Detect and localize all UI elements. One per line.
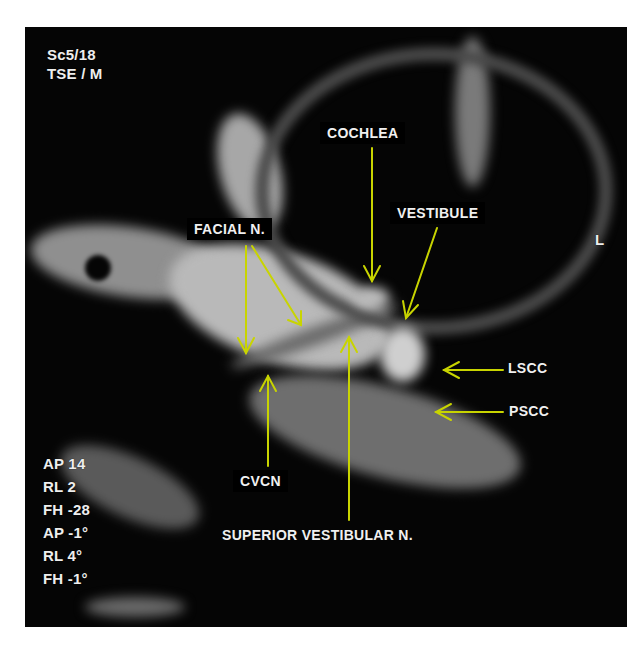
arc-top: [255, 47, 613, 335]
bottom-left-tissue-2: [85, 597, 185, 617]
scan-geometry-bottom-left: AP 14 RL 2 FH -28 AP -1° RL 4° FH -1°: [43, 452, 90, 590]
dark-hole: [85, 255, 111, 281]
geometry-line: FH -28: [43, 498, 90, 521]
label-superior-vestibular-n: SUPERIOR VESTIBULAR N.: [222, 527, 413, 543]
label-lscc: LSCC: [508, 360, 547, 376]
geometry-line: AP -1°: [43, 521, 90, 544]
geometry-line: RL 4°: [43, 544, 90, 567]
label-pscc: PSCC: [509, 403, 549, 419]
label-cvcn: CVCN: [233, 470, 288, 492]
label-facial-n: FACIAL N.: [187, 218, 272, 240]
scan-info-top-left: Sc5/18 TSE / M: [47, 45, 103, 83]
geometry-line: RL 2: [43, 475, 90, 498]
vestibule-bright: [380, 327, 425, 382]
label-vestibule: VESTIBULE: [390, 202, 485, 224]
orientation-marker: L: [595, 230, 604, 249]
label-cochlea: COCHLEA: [320, 122, 405, 144]
sequence-label: TSE / M: [47, 64, 103, 83]
geometry-line: FH -1°: [43, 567, 90, 590]
cochlea-bright: [355, 287, 390, 309]
geometry-line: AP 14: [43, 452, 90, 475]
series-label: Sc5/18: [47, 45, 103, 64]
